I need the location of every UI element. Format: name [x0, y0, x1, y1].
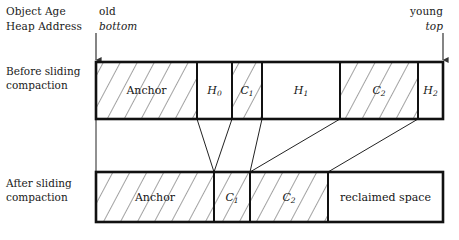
direction-arrows	[96, 33, 443, 60]
after-segment-label: Anchor	[134, 191, 176, 204]
after-segment: C2	[250, 172, 328, 222]
relocation-connectors	[96, 119, 418, 172]
relocation-connector	[328, 119, 418, 172]
before-segment: Anchor	[96, 62, 197, 119]
memory-layout-diagram: AnchorH0C1H1C2H2 AnchorC1C2reclaimed spa…	[0, 0, 459, 240]
relocation-connector	[250, 119, 262, 172]
before-segment-label: Anchor	[125, 84, 167, 97]
after-bar: AnchorC1C2reclaimed space	[96, 172, 443, 222]
before-segment: C2	[340, 62, 418, 119]
after-segment: C1	[214, 172, 250, 222]
relocation-connector	[214, 119, 232, 172]
before-segment: C1	[232, 62, 262, 119]
before-segment: H2	[418, 62, 443, 119]
after-segment-label: reclaimed space	[340, 191, 431, 204]
relocation-connector	[250, 119, 340, 172]
after-segment: Anchor	[96, 172, 214, 222]
before-segment: H0	[197, 62, 232, 119]
before-segment: H1	[262, 62, 340, 119]
after-segment: reclaimed space	[328, 172, 443, 222]
relocation-connector	[197, 119, 214, 172]
before-bar: AnchorH0C1H1C2H2	[96, 62, 443, 119]
figure-root: Object Age Heap Address old bottom young…	[0, 0, 459, 240]
